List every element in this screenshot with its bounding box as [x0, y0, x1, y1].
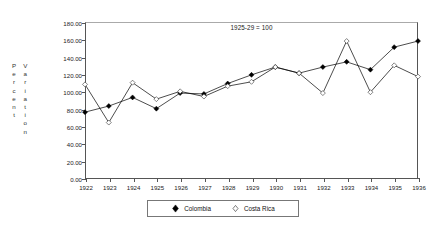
legend-label-costa-rica: Costa Rica: [244, 205, 275, 212]
filled-diamond-icon: [171, 204, 180, 213]
y-axis-title-variation-char: a: [23, 95, 26, 103]
y-axis-title-column-percent: Percent: [12, 62, 16, 119]
y-axis-title-percent-char: c: [13, 87, 16, 95]
y-axis-title-variation-char: a: [23, 70, 26, 78]
y-axis-title-variation-char: V: [23, 62, 27, 70]
filled-diamond-icon: [130, 95, 135, 100]
x-tick-label: 1930: [270, 184, 284, 191]
legend-entry-colombia: Colombia: [171, 204, 211, 213]
x-tick-label: 1934: [365, 184, 379, 191]
filled-diamond-icon: [106, 104, 111, 109]
hollow-diamond-icon: [249, 79, 254, 84]
y-axis-title-percent-char: n: [12, 103, 15, 111]
legend: Colombia Costa Rica: [147, 200, 299, 217]
y-tick-label: 180.00: [63, 20, 86, 27]
line-chart: Percent Variation 1925-29 = 100 0.0020.0…: [0, 0, 442, 235]
filled-diamond-icon: [344, 59, 349, 64]
x-tick-label: 1928: [222, 184, 236, 191]
x-tick-label: 1931: [293, 184, 307, 191]
y-tick-label: 140.00: [63, 54, 86, 61]
x-tick-label: 1936: [412, 184, 426, 191]
y-axis-title-variation-char: r: [24, 78, 26, 86]
y-axis-title: Percent Variation: [12, 62, 46, 154]
y-axis-title-percent-char: e: [12, 70, 15, 78]
y-axis-title-percent-char: e: [12, 95, 15, 103]
y-tick-label: 60.00: [67, 124, 86, 131]
filled-diamond-icon: [320, 65, 325, 70]
y-axis-title-variation-char: o: [23, 119, 26, 127]
y-axis-title-variation-char: i: [25, 111, 26, 119]
y-axis-title-percent-char: P: [12, 62, 16, 70]
x-tick-label: 1925: [151, 184, 165, 191]
x-tick-label: 1929: [246, 184, 260, 191]
y-tick-label: 20.00: [67, 158, 86, 165]
x-tick-label: 1923: [103, 184, 117, 191]
hollow-diamond-icon: [83, 82, 88, 87]
y-tick-label: 100.00: [63, 89, 86, 96]
hollow-diamond-icon: [344, 39, 349, 44]
legend-label-colombia: Colombia: [184, 205, 211, 212]
x-tick-label: 1927: [198, 184, 212, 191]
x-axis-line: [85, 178, 419, 179]
y-axis-title-column-variation: Variation: [23, 62, 27, 136]
y-axis-title-percent-char: r: [13, 78, 15, 86]
y-tick-label: 40.00: [67, 141, 86, 148]
y-tick-label: 160.00: [63, 37, 86, 44]
hollow-diamond-icon: [106, 120, 111, 125]
y-axis-title-variation-char: i: [25, 87, 26, 95]
y-tick-label: 0.00: [70, 176, 86, 183]
y-axis-title-variation-char: n: [23, 128, 26, 136]
x-tick-label: 1926: [174, 184, 188, 191]
hollow-diamond-icon: [130, 80, 135, 85]
x-tick-label: 1933: [341, 184, 355, 191]
x-tick-label: 1922: [79, 184, 93, 191]
filled-diamond-icon: [416, 39, 421, 44]
y-axis-title-variation-char: t: [24, 103, 26, 111]
hollow-diamond-icon: [416, 74, 421, 79]
series-overlay: [85, 22, 418, 178]
hollow-diamond-icon: [273, 65, 278, 70]
x-tick-mark: [419, 178, 420, 182]
x-tick-label: 1932: [317, 184, 331, 191]
y-tick-label: 120.00: [63, 72, 86, 79]
filled-diamond-icon: [154, 106, 159, 111]
hollow-diamond-icon: [154, 97, 159, 102]
x-tick-label: 1935: [388, 184, 402, 191]
hollow-diamond-icon: [231, 204, 240, 213]
y-axis-title-percent-char: t: [13, 111, 15, 119]
filled-diamond-icon: [249, 72, 254, 77]
legend-entry-costa-rica: Costa Rica: [231, 204, 275, 213]
x-tick-label: 1924: [127, 184, 141, 191]
